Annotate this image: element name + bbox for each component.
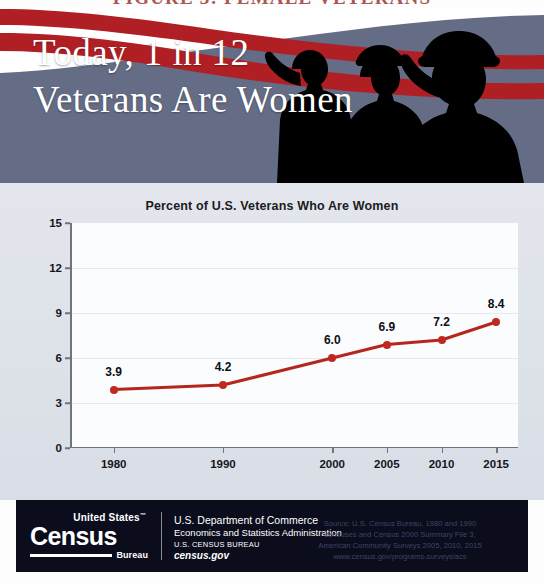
- data-point-2000: [328, 354, 336, 362]
- y-tick-6: 6: [36, 352, 62, 364]
- banner-headline: Today, 1 in 12 Veterans Are Women: [33, 29, 503, 124]
- headline-line-2: Veterans Are Women: [33, 76, 503, 123]
- logo-rule: Bureau: [30, 550, 148, 560]
- source-line-3: American Community Surveys 2005, 2010, 2…: [284, 540, 516, 551]
- y-tick-3: 3: [36, 397, 62, 409]
- footer-divider: [161, 512, 162, 560]
- y-tick-15: 15: [36, 217, 62, 229]
- y-tick-0: 0: [36, 442, 62, 454]
- logo-bar: [30, 554, 112, 557]
- infographic-page: FIGURE 3: FEMALE VETERANS: [0, 0, 544, 585]
- source-line-2: censuses and Census 2000 Summary File 3,: [284, 529, 516, 540]
- footer-bar: United States™ Census Bureau U.S. Depart…: [16, 500, 528, 572]
- source-url[interactable]: www.census.gov/programs-surveys/acs: [284, 551, 516, 562]
- logo-bureau-text: Bureau: [116, 550, 148, 560]
- trademark-icon: ™: [140, 512, 146, 518]
- line-chart-plot-area: 03691215 198019902000200520102015 3.94.2…: [70, 223, 518, 448]
- data-point-1990: [219, 381, 227, 389]
- census-bureau-logo: United States™ Census Bureau: [30, 512, 148, 560]
- data-point-2005: [383, 341, 391, 349]
- data-label-2005: 6.9: [379, 320, 396, 334]
- headline-line-1: Today, 1 in 12: [33, 32, 249, 73]
- data-label-1990: 4.2: [215, 360, 232, 374]
- x-tick-2010: 2010: [429, 458, 455, 470]
- source-citation: Source: U.S. Census Bureau, 1980 and 199…: [284, 518, 516, 562]
- logo-census-wordmark: Census: [30, 524, 148, 548]
- data-point-1980: [110, 386, 118, 394]
- y-tick-9: 9: [36, 307, 62, 319]
- data-label-2015: 8.4: [488, 297, 505, 311]
- veterans-percent-line: [70, 223, 518, 448]
- x-tickmark-1980: [114, 448, 116, 453]
- x-tickmark-2010: [442, 448, 444, 453]
- chart-title: Percent of U.S. Veterans Who Are Women: [0, 199, 544, 213]
- data-label-2010: 7.2: [433, 315, 450, 329]
- banner-background: Today, 1 in 12 Veterans Are Women: [0, 7, 544, 183]
- chart-section: Percent of U.S. Veterans Who Are Women 0…: [0, 183, 544, 500]
- x-tick-2015: 2015: [483, 458, 509, 470]
- x-tickmark-2005: [387, 448, 389, 453]
- x-tick-2000: 2000: [319, 458, 345, 470]
- x-tickmark-2015: [496, 448, 498, 453]
- series-line: [114, 322, 496, 390]
- y-tick-12: 12: [36, 262, 62, 274]
- x-tick-2005: 2005: [374, 458, 400, 470]
- x-tick-1980: 1980: [101, 458, 127, 470]
- data-point-2015: [492, 318, 500, 326]
- cut-off-figure-title: FIGURE 3: FEMALE VETERANS: [0, 0, 544, 7]
- x-tick-1990: 1990: [210, 458, 236, 470]
- data-label-2000: 6.0: [324, 333, 341, 347]
- data-point-2010: [438, 336, 446, 344]
- x-tickmark-1990: [223, 448, 225, 453]
- data-label-1980: 3.9: [105, 365, 122, 379]
- header-banner: Today, 1 in 12 Veterans Are Women: [0, 7, 544, 183]
- x-tickmark-2000: [332, 448, 334, 453]
- source-line-1: Source: U.S. Census Bureau, 1980 and 199…: [284, 518, 516, 529]
